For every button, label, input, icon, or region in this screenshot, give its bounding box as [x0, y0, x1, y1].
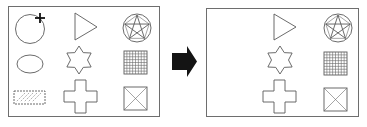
diagram — [0, 0, 367, 127]
right-arrow-icon — [172, 46, 197, 77]
panel-after — [207, 9, 359, 117]
panel-before — [9, 7, 160, 117]
